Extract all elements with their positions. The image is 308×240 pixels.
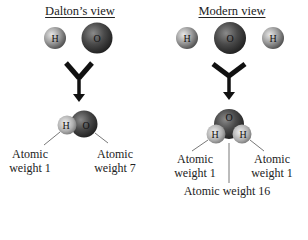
dalton-reactant-oxygen-atom: O xyxy=(82,23,113,54)
atom-symbol: H xyxy=(62,120,69,131)
dalton-product-molecule: H O xyxy=(58,111,98,138)
modern-reactant-hydrogen-atom-right: H xyxy=(262,27,284,49)
atom-symbol: H xyxy=(51,33,58,44)
modern-hydrogen-right-weight-label: Atomic weight 1 xyxy=(251,152,293,180)
dalton-reactant-hydrogen-atom: H xyxy=(44,27,66,49)
leader-line xyxy=(250,140,264,151)
modern-combine-arrow-icon xyxy=(213,64,245,100)
label-line: weight 1 xyxy=(174,166,216,180)
label-line: weight 1 xyxy=(9,161,51,175)
dalton-oxygen-weight-label: Atomic weight 7 xyxy=(94,147,136,175)
atom-symbol: O xyxy=(225,112,232,123)
label-line: weight 7 xyxy=(94,161,136,175)
label-line: Atomic weight 16 xyxy=(184,184,271,198)
atom-symbol: O xyxy=(82,120,89,131)
dalton-hydrogen-weight-label: Atomic weight 1 xyxy=(9,147,51,175)
atom-symbol: H xyxy=(269,33,276,44)
atom-symbol: O xyxy=(226,33,233,44)
dalton-combine-arrow-icon xyxy=(66,63,92,102)
modern-hydrogen-left-weight-label: Atomic weight 1 xyxy=(174,152,216,180)
atom-symbol: H xyxy=(211,129,218,140)
label-line: Atomic xyxy=(94,147,136,161)
label-line: weight 1 xyxy=(251,166,293,180)
leader-line xyxy=(192,140,208,151)
label-line: Atomic xyxy=(9,147,51,161)
label-line: Atomic xyxy=(251,152,293,166)
atom-symbol: O xyxy=(93,33,100,44)
modern-product-molecule: O H H xyxy=(207,109,252,144)
modern-reactant-hydrogen-atom-left: H xyxy=(176,27,198,49)
label-line: Atomic xyxy=(174,152,216,166)
atom-symbol: H xyxy=(239,129,246,140)
modern-oxygen-weight-label: Atomic weight 16 xyxy=(184,184,271,198)
leader-line xyxy=(44,132,60,145)
atom-symbol: H xyxy=(183,33,190,44)
modern-reactant-oxygen-atom: O xyxy=(214,22,246,54)
leader-line xyxy=(95,133,108,143)
